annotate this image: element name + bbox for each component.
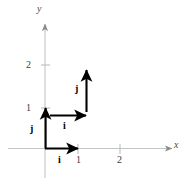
y-tick-label-2: 2 [26, 60, 31, 70]
y-axis [41, 24, 50, 178]
y-tick-label-1: 1 [26, 103, 31, 113]
x-axis [8, 144, 172, 154]
x-axis-label: x [174, 140, 178, 150]
vector-figure: y x 2 1 1 2 i j i j [0, 0, 183, 188]
figure-canvas [0, 0, 183, 188]
vector-label-j-translated: j [75, 84, 78, 94]
x-tick-label-2: 2 [117, 155, 122, 165]
vector-label-i-translated: i [63, 121, 66, 131]
vector-label-j-origin: j [30, 124, 33, 134]
y-axis-label: y [37, 4, 41, 14]
x-tick-label-1: 1 [76, 155, 81, 165]
vector-label-i-origin: i [58, 155, 61, 165]
vector-group [45, 70, 87, 149]
